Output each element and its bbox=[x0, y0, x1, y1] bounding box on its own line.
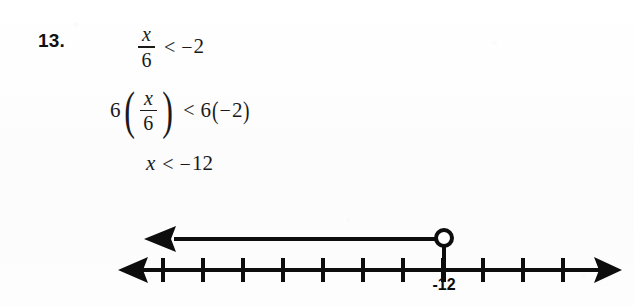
ray-left-arrow-icon bbox=[144, 226, 176, 252]
worksheet-page: 13. x 6 < − 2 6 ( x 6 ) < 6 ( − bbox=[0, 0, 634, 306]
number-line-point-label: -12 bbox=[432, 276, 455, 294]
number-line-ink bbox=[118, 226, 622, 283]
number-line-graph bbox=[0, 0, 634, 306]
open-circle-endpoint bbox=[436, 230, 452, 246]
